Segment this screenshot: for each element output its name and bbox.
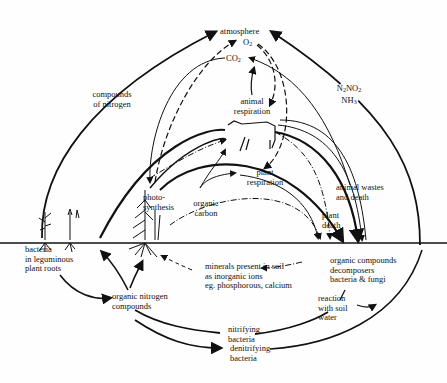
no2-text: NO	[346, 83, 358, 93]
label-animal-wastes: animal wastes and death	[336, 183, 384, 202]
arrow-reaction-soil-water	[357, 305, 375, 307]
nh3-subscript: 3	[354, 99, 357, 105]
compounds-line: compounds	[112, 302, 168, 312]
label-co2: CO2	[226, 54, 241, 66]
label-reaction-soil-water: reaction with soil water	[318, 294, 348, 323]
examples-line: eg. phosphorous, calcium	[205, 281, 292, 291]
label-organic-nitrogen: organic nitrogen compounds	[112, 292, 168, 311]
label-o2: O2	[243, 38, 252, 50]
label-atmosphere: atmosphere	[220, 27, 259, 37]
co2-text: CO	[226, 53, 238, 63]
respiration-line: respiration	[226, 107, 278, 117]
label-compounds-of-nitrogen: compounds of nitrogen	[82, 90, 142, 109]
label-denitrifying: denitrifying bacteria	[230, 344, 270, 363]
synthesis-line: synthesis	[143, 203, 174, 213]
respiration-line: respiration	[240, 178, 290, 188]
label-organic-carbon: organic carbon	[188, 199, 224, 218]
arrow-organic-carbon-to-plant-resp	[200, 173, 235, 188]
arrow-minerals-to-plants	[162, 256, 192, 270]
label-plant-respiration: plant respiration	[240, 168, 290, 187]
death-line: death	[322, 221, 340, 231]
arrow-o2-from-photosynthesis	[155, 41, 235, 182]
label-bacteria-legume: bacteria in leguminous plant roots	[25, 245, 73, 274]
arrow-legume-to-organic-n	[60, 275, 110, 298]
nitrogen-gases-line2: NH3	[331, 96, 367, 108]
water-line: water	[318, 313, 348, 323]
arrow-animal-to-co2	[251, 68, 254, 95]
of-nitrogen-line: of nitrogen	[82, 100, 142, 110]
label-nitrogen-gases: N2NO2 NH3	[331, 84, 367, 107]
co2-subscript: 2	[238, 57, 241, 63]
plant-roots-line: plant roots	[25, 264, 73, 274]
nh3-text: NH	[341, 95, 353, 105]
arrow-decay-to-co2	[250, 58, 350, 185]
label-photosynthesis: photo- synthesis	[143, 193, 174, 212]
arrow-co2-to-photosynthesis	[150, 58, 225, 182]
arrow-organic-n-to-plants	[102, 252, 128, 290]
bacteria-fungi-line: bacteria & fungi	[330, 275, 397, 285]
o2-subscript: 2	[249, 41, 252, 47]
no2-subscript: 2	[358, 87, 361, 93]
label-plant-death: plant death	[322, 211, 340, 230]
carbon-line: carbon	[188, 209, 224, 219]
label-nitrifying: nitrifying bacteria	[228, 325, 260, 344]
label-organic-compounds: organic compounds decomposers bacteria &…	[330, 256, 397, 285]
label-animal-respiration: animal respiration	[226, 97, 278, 116]
and-death-line: and death	[336, 193, 384, 203]
animal-illustration	[228, 121, 275, 151]
arrow-to-denitrifying	[135, 320, 220, 348]
arrow-to-nitrifying	[135, 310, 220, 333]
label-minerals: minerals present in soil as inorganic io…	[205, 262, 292, 291]
arc-animal-to-ground	[100, 130, 225, 238]
bacteria-line: bacteria	[230, 354, 270, 364]
nutrient-cycle-diagram: atmosphere O2 CO2 N2NO2 NH3 compounds of…	[0, 0, 447, 383]
arrow-organic-carbon-to-animal	[200, 150, 225, 188]
